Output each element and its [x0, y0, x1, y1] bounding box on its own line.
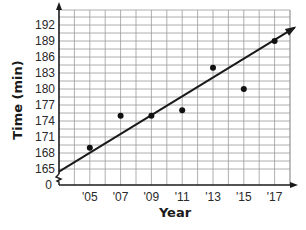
data-point — [179, 107, 185, 113]
trend-line — [59, 27, 296, 172]
x-tick-label: '05 — [82, 190, 98, 204]
axis-break-icon — [56, 174, 61, 185]
x-tick-label: '13 — [205, 190, 221, 204]
data-point — [210, 65, 216, 71]
data-point — [148, 113, 154, 119]
x-tick-labels: '05'07'09'11'13'15'17 — [82, 190, 283, 204]
data-point — [87, 145, 93, 151]
y-tick-label: 189 — [35, 34, 55, 48]
y-tick-label: 192 — [35, 18, 55, 32]
y-axis-title: Time (min) — [10, 60, 25, 139]
y-tick-label: 177 — [35, 98, 55, 112]
y-tick-labels: 1651681711741771801831861891920 — [35, 18, 55, 192]
y-tick-label: 174 — [35, 114, 55, 128]
x-tick-label: '07 — [113, 190, 129, 204]
x-tick-label: '11 — [175, 190, 190, 204]
grid-lines — [59, 10, 290, 185]
y-axis-arrow-icon — [56, 2, 62, 10]
y-tick-label: 180 — [35, 82, 55, 96]
x-tick-label: '15 — [236, 190, 252, 204]
scatter-chart: 1651681711741771801831861891920 '05'07'0… — [0, 0, 306, 230]
x-axis-title: Year — [158, 205, 192, 220]
data-point — [272, 38, 278, 44]
x-axis-arrow-icon — [290, 182, 298, 188]
trend-arrow-icon — [285, 27, 296, 36]
y-tick-label: 0 — [45, 178, 52, 192]
x-tick-label: '17 — [267, 190, 283, 204]
data-point — [118, 113, 124, 119]
data-point — [241, 86, 247, 92]
y-tick-label: 171 — [35, 130, 55, 144]
y-tick-label: 186 — [35, 50, 55, 64]
y-tick-label: 165 — [35, 162, 55, 176]
y-tick-label: 168 — [35, 146, 55, 160]
y-tick-label: 183 — [35, 66, 55, 80]
axes — [56, 2, 298, 188]
x-tick-label: '09 — [144, 190, 160, 204]
